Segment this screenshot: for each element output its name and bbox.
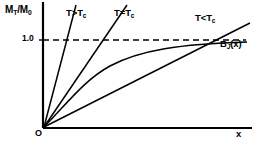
curve-label-brillouin-text: B	[220, 38, 227, 49]
curve-t-greater-tc	[44, 5, 76, 127]
origin-label: O	[35, 129, 42, 138]
y-axis-label-m: M	[5, 4, 13, 15]
curve-label-t-greater-tc-text: T>T	[66, 7, 83, 18]
y-axis-label-divisor: /M	[17, 4, 28, 15]
x-axis-label: x	[236, 129, 241, 139]
curve-label-t-equal-tc-text: T=T	[114, 7, 131, 18]
y-axis-label: MT/M0	[5, 5, 32, 15]
curve-label-t-equal-tc-sub: c	[131, 12, 134, 19]
curve-label-t-equal-tc: T=Tc	[114, 8, 134, 18]
curve-brillouin-bj	[44, 42, 247, 127]
curve-label-t-less-tc: T<Tc	[195, 13, 215, 23]
curve-label-t-greater-tc-sub: c	[83, 12, 86, 19]
curve-label-t-greater-tc: T>Tc	[66, 8, 86, 18]
curve-label-t-less-tc-sub: c	[212, 17, 215, 24]
y-axis-label-sub-t: T	[13, 9, 17, 16]
plot-area	[0, 0, 260, 144]
curve-t-equal-tc	[44, 5, 127, 127]
y-axis-label-sub-0: 0	[28, 9, 32, 16]
y-tick-label-1-0: 1.0	[22, 34, 34, 43]
curve-label-brillouin-arg: (x)	[230, 38, 241, 49]
curve-label-t-less-tc-text: T<T	[195, 12, 212, 23]
curve-label-brillouin-sub: J	[227, 43, 230, 50]
brillouin-function-chart: MT/M0 1.0 x O T>Tc T=Tc T<Tc BJ(x)	[0, 0, 260, 144]
curve-label-brillouin: BJ(x)	[220, 39, 241, 49]
